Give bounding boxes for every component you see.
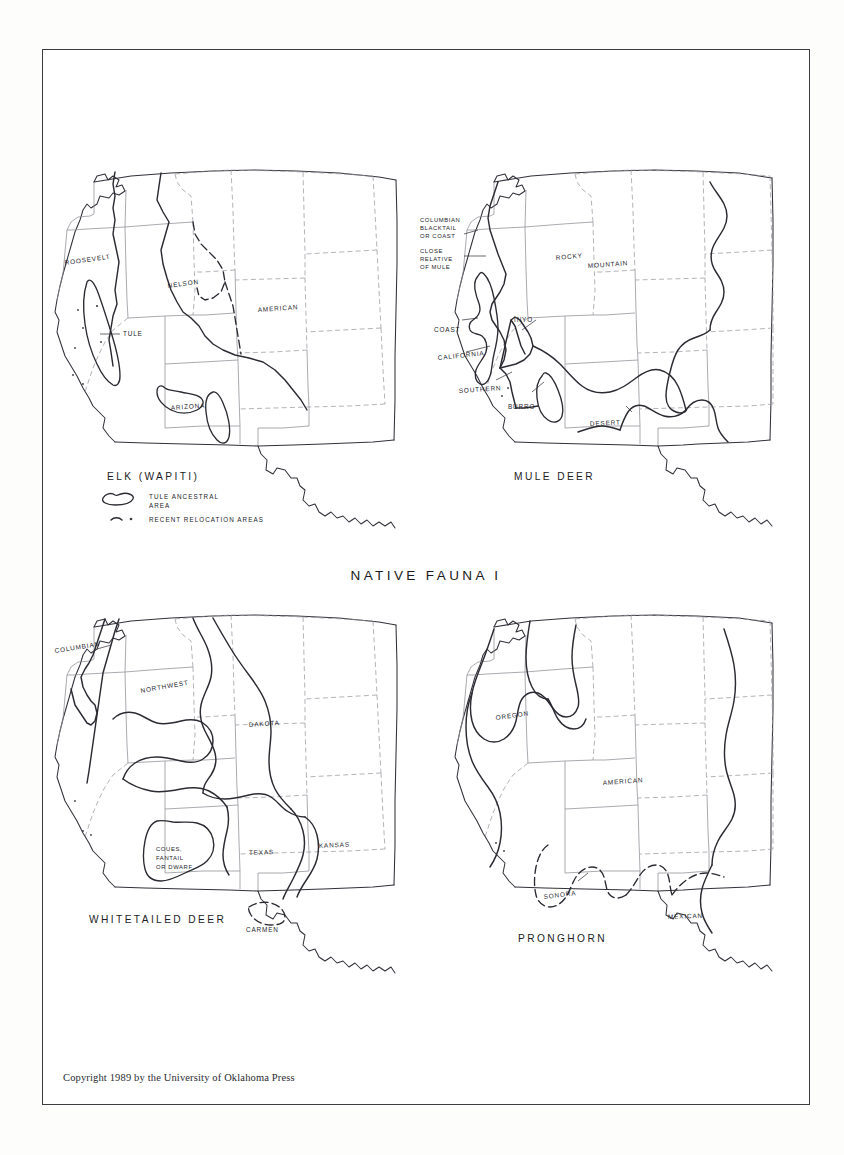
map-pronghorn: OREGON AMERICAN SONORA MEXICAN PRONGHORN xyxy=(418,605,773,995)
mule-map-labels: COLUMBIAN BLACKTAIL OR COAST CLOSE RELAT… xyxy=(420,217,628,427)
white-label-or-dwarf: OR DWARF xyxy=(156,864,193,870)
maps-area: ROOSEVELT NELSON AMERICAN TULE ARIZONA E… xyxy=(43,50,809,1104)
white-label-northwest: NORTHWEST xyxy=(140,679,189,694)
mule-label-relative: RELATIVE xyxy=(420,256,453,262)
mule-label-southern: SOUTHERN xyxy=(459,384,502,394)
elk-label-american: AMERICAN xyxy=(258,303,299,313)
mule-label-mountain: MOUNTAIN xyxy=(588,259,629,269)
elk-state-lines xyxy=(57,170,385,446)
white-label-fantail: FANTAIL xyxy=(156,855,184,861)
white-label-coues: COUES, xyxy=(156,846,182,852)
plate-frame: ROOSEVELT NELSON AMERICAN TULE ARIZONA E… xyxy=(42,49,810,1105)
mule-label-columbian: COLUMBIAN xyxy=(420,217,460,223)
mule-state-lines xyxy=(457,170,773,446)
white-map-title: WHITETAILED DEER xyxy=(89,914,226,925)
legend-swatch-tule-blob xyxy=(103,493,134,505)
map-mule-deer-svg: COLUMBIAN BLACKTAIL OR COAST CLOSE RELAT… xyxy=(418,160,773,550)
white-label-texas: TEXAS xyxy=(249,848,274,856)
map-mule-deer: COLUMBIAN BLACKTAIL OR COAST CLOSE RELAT… xyxy=(418,160,773,550)
mule-label-or-coast: OR COAST xyxy=(420,233,456,239)
elk-label-roosevelt: ROOSEVELT xyxy=(64,253,111,266)
white-range-lines xyxy=(71,618,319,925)
map-whitetailed-deer: COLUMBIAN NORTHWEST DAKOTA KANSAS TEXAS … xyxy=(53,605,398,995)
mule-range-lines xyxy=(462,182,728,442)
pronghorn-range-lines xyxy=(466,621,736,933)
elk-label-arizona: ARIZONA xyxy=(171,402,206,411)
mule-label-burro: BURRO xyxy=(508,403,535,410)
map-pronghorn-svg: OREGON AMERICAN SONORA MEXICAN PRONGHORN xyxy=(418,605,773,995)
mule-label-blacktail: BLACKTAIL xyxy=(420,225,457,231)
legend-swatch-relocation-dash xyxy=(111,518,122,520)
elk-legend-tule-line1: TULE ANCESTRAL xyxy=(149,493,219,500)
pronghorn-state-lines xyxy=(457,615,773,891)
pronghorn-label-sonora: SONORA xyxy=(543,889,576,900)
mule-label-california: CALIFORNIA xyxy=(437,349,484,361)
pronghorn-label-american: AMERICAN xyxy=(603,776,644,786)
elk-label-nelson: NELSON xyxy=(167,278,199,289)
elk-title-and-legend: ELK (WAPITI) TULE ANCESTRAL AREA RECENT … xyxy=(103,471,264,523)
plate-title: NATIVE FAUNA I xyxy=(43,568,809,583)
pronghorn-basemap xyxy=(455,615,773,971)
mule-label-close: CLOSE xyxy=(420,248,443,254)
map-whitetailed-deer-svg: COLUMBIAN NORTHWEST DAKOTA KANSAS TEXAS … xyxy=(53,605,398,995)
mule-label-inyo: INYO xyxy=(514,316,533,323)
map-elk: ROOSEVELT NELSON AMERICAN TULE ARIZONA E… xyxy=(53,160,398,550)
pronghorn-map-labels: OREGON AMERICAN SONORA MEXICAN xyxy=(495,709,703,920)
legend-swatch-relocation-dot xyxy=(130,518,133,521)
map-elk-svg: ROOSEVELT NELSON AMERICAN TULE ARIZONA E… xyxy=(53,160,398,550)
white-label-kansas: KANSAS xyxy=(319,840,350,849)
mule-map-title: MULE DEER xyxy=(514,471,595,482)
mule-label-of-mule: OF MULE xyxy=(420,264,450,270)
white-label-dakota: DAKOTA xyxy=(249,719,280,728)
mule-label-rocky: ROCKY xyxy=(555,252,582,261)
elk-map-labels: ROOSEVELT NELSON AMERICAN TULE ARIZONA xyxy=(64,253,298,411)
white-state-lines xyxy=(57,615,385,891)
elk-legend-tule-line2: AREA xyxy=(149,502,170,509)
white-label-carmen: CARMEN xyxy=(246,926,279,933)
pronghorn-label-mexican: MEXICAN xyxy=(668,912,703,920)
copyright-notice: Copyright 1989 by the University of Okla… xyxy=(63,1072,295,1083)
elk-legend: TULE ANCESTRAL AREA RECENT RELOCATION AR… xyxy=(103,493,264,523)
elk-label-tule: TULE xyxy=(123,330,143,337)
elk-legend-relocation-line1: RECENT RELOCATION AREAS xyxy=(149,516,264,523)
pronghorn-map-title: PRONGHORN xyxy=(518,933,607,944)
page-background: ROOSEVELT NELSON AMERICAN TULE ARIZONA E… xyxy=(0,0,844,1155)
pronghorn-label-oregon: OREGON xyxy=(495,709,529,721)
mule-label-coast: COAST xyxy=(434,326,460,333)
elk-map-title: ELK (WAPITI) xyxy=(107,471,199,482)
